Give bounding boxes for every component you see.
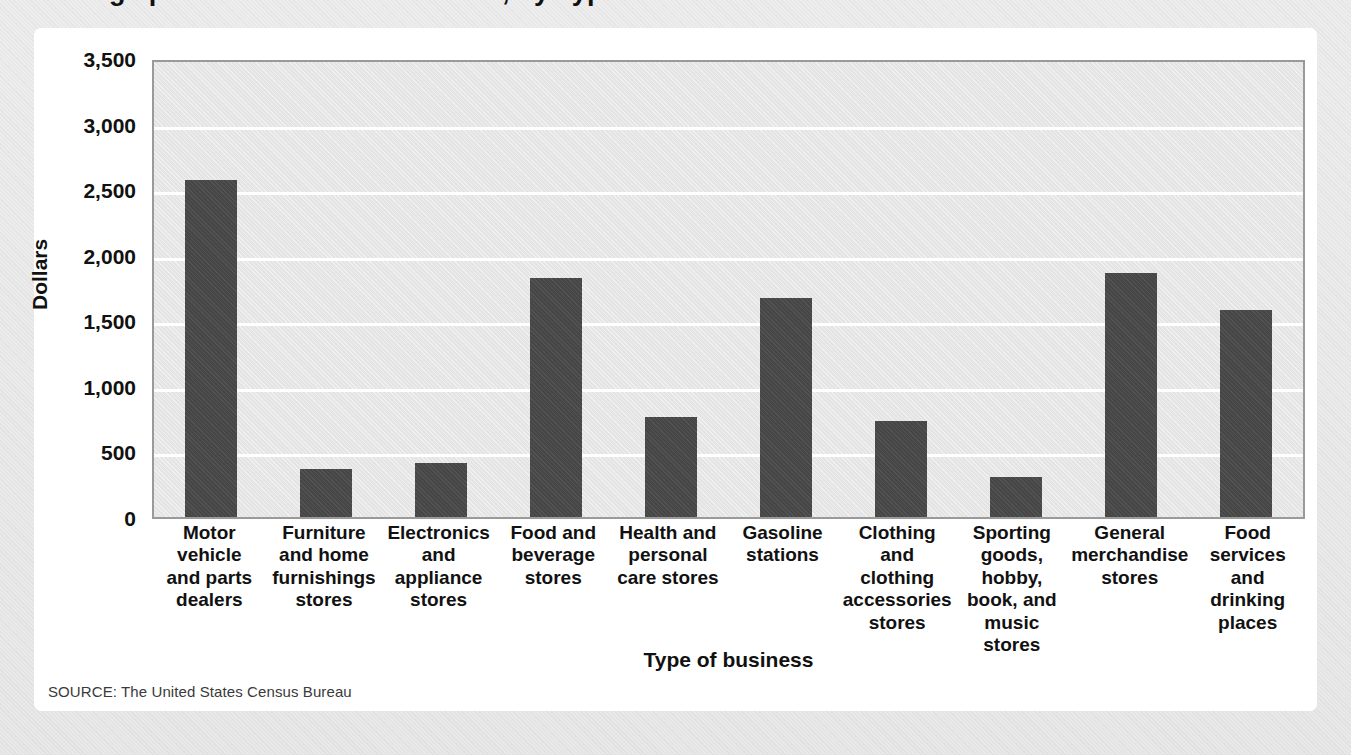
bar-cell [269, 62, 384, 517]
x-axis-category-line: stores [383, 589, 494, 611]
x-axis-category-label: Generalmerchandisestores [1069, 522, 1190, 656]
x-axis-category-line: and [1192, 567, 1303, 589]
x-axis-category-line: Clothing [842, 522, 953, 544]
x-axis-title: Type of business [152, 648, 1305, 672]
y-axis-tick-label: 3,500 [83, 48, 136, 72]
bar[interactable] [1220, 310, 1272, 517]
x-axis-category-label: Motorvehicleand partsdealers [152, 522, 267, 656]
bar-cell [154, 62, 269, 517]
x-axis-category-line: care stores [613, 567, 724, 589]
x-axis-category-label: Electronicsandappliancestores [381, 522, 496, 656]
x-axis-category-line: appliance [383, 567, 494, 589]
x-axis-category-line: Furniture [269, 522, 380, 544]
y-axis-tick-label: 1,500 [83, 310, 136, 334]
x-axis-category-line: drinking [1192, 589, 1303, 611]
bar-cell [499, 62, 614, 517]
bar[interactable] [1105, 273, 1157, 517]
bar[interactable] [415, 463, 467, 517]
x-axis-category-label: Health andpersonalcare stores [611, 522, 726, 656]
x-axis-category-label: Sportinggoods,hobby,book, andmusicstores [954, 522, 1069, 656]
x-axis-category-line: clothing [842, 567, 953, 589]
x-axis-category-line: stations [727, 544, 838, 566]
x-axis-category-line: hobby, [956, 567, 1067, 589]
x-axis-category-line: Health and [613, 522, 724, 544]
y-axis-tick-label: 1,000 [83, 376, 136, 400]
bar[interactable] [185, 180, 237, 517]
x-axis-category-line: goods, [956, 544, 1067, 566]
bar[interactable] [530, 278, 582, 517]
x-axis-category-line: Sporting [956, 522, 1067, 544]
x-axis-category-line: furnishings [269, 567, 380, 589]
x-axis-category-label: Food andbeveragestores [496, 522, 611, 656]
x-axis-category-line: Food and [498, 522, 609, 544]
x-axis-category-line: Food [1192, 522, 1303, 544]
x-axis-category-line: beverage [498, 544, 609, 566]
y-axis-title: Dollars [28, 239, 52, 310]
bar-cell [614, 62, 729, 517]
x-axis-category-label: Foodservicesanddrinkingplaces [1190, 522, 1305, 656]
x-axis-category-label: Furnitureand homefurnishingsstores [267, 522, 382, 656]
x-axis-category-line: stores [498, 567, 609, 589]
bar-cell [1188, 62, 1303, 517]
x-axis-category-line: book, and [956, 589, 1067, 611]
x-axis-category-line: stores [269, 589, 380, 611]
bar-cell [1073, 62, 1188, 517]
x-axis-category-line: and parts [154, 567, 265, 589]
x-axis-category-label: Clothingandclothingaccessoriesstores [840, 522, 955, 656]
x-axis-category-line: and home [269, 544, 380, 566]
x-axis-category-line: services [1192, 544, 1303, 566]
plot-area [152, 60, 1305, 519]
x-axis-category-line: places [1192, 612, 1303, 634]
bar-cell [958, 62, 1073, 517]
x-axis-category-line: Gasoline [727, 522, 838, 544]
page-title: Average per Household Retail Sales, by T… [34, 0, 782, 7]
x-axis-category-line: and [383, 544, 494, 566]
x-axis-category-line: stores [1071, 567, 1188, 589]
bar[interactable] [300, 469, 352, 517]
bar-cell [843, 62, 958, 517]
x-axis-category-line: stores [842, 612, 953, 634]
bar-cell [384, 62, 499, 517]
bar[interactable] [875, 421, 927, 517]
chart-title-strip: Average per Household Retail Sales, by T… [0, 0, 1351, 14]
y-axis-tick-label: 2,000 [83, 245, 136, 269]
x-axis-category-line: personal [613, 544, 724, 566]
chart-card: Dollars 3,5003,0002,5002,0001,5001,00050… [34, 28, 1317, 711]
bar[interactable] [990, 477, 1042, 517]
y-axis-tick-label: 0 [124, 507, 136, 531]
x-axis-category-line: merchandise [1071, 544, 1188, 566]
x-axis-category-label: Gasolinestations [725, 522, 840, 656]
y-axis-tick-label: 3,000 [83, 114, 136, 138]
x-axis-category-line: music [956, 612, 1067, 634]
y-axis-tick-label: 2,500 [83, 179, 136, 203]
y-axis: Dollars 3,5003,0002,5002,0001,5001,00050… [34, 60, 146, 519]
x-axis-category-line: accessories [842, 589, 953, 611]
x-axis-category-line: Motor [154, 522, 265, 544]
bar[interactable] [760, 298, 812, 517]
x-axis-tick-labels: Motorvehicleand partsdealersFurnitureand… [152, 522, 1305, 656]
y-axis-tick-label: 500 [101, 441, 136, 465]
x-axis-category-line: General [1071, 522, 1188, 544]
x-axis-category-line: dealers [154, 589, 265, 611]
x-axis-category-line: Electronics [383, 522, 494, 544]
source-note: SOURCE: The United States Census Bureau [48, 683, 352, 700]
bar[interactable] [645, 417, 697, 517]
x-axis-category-line: and [842, 544, 953, 566]
x-axis-category-line: vehicle [154, 544, 265, 566]
bar-series [154, 62, 1303, 517]
bar-cell [729, 62, 844, 517]
